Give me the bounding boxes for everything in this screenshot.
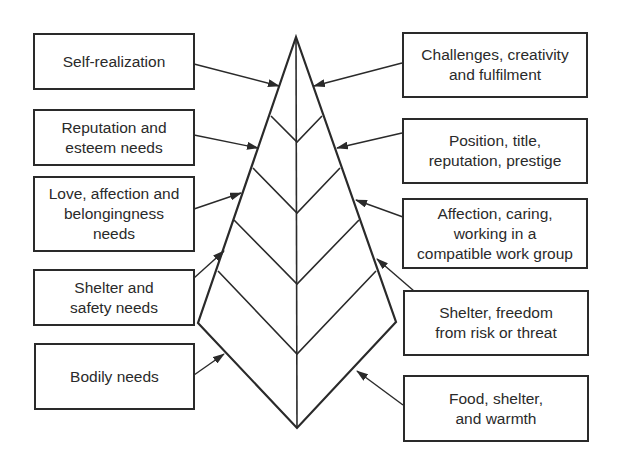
label-box-shelter-freedom: Shelter, freedom from risk or threat <box>403 290 589 356</box>
label-text: Shelter and safety needs <box>70 278 158 318</box>
arrow-right-3 <box>356 200 403 217</box>
label-text: Challenges, creativity and fulfilment <box>421 45 568 85</box>
label-text: Shelter, freedom from risk or threat <box>435 303 556 343</box>
label-box-shelter-safety: Shelter and safety needs <box>33 269 195 326</box>
arrow-left-3 <box>194 193 241 209</box>
label-text: Food, shelter, and warmth <box>449 389 543 429</box>
label-text: Self-realization <box>63 52 166 72</box>
arrow-right-2 <box>337 133 402 148</box>
arrow-left-2 <box>194 135 258 148</box>
arrow-left-1 <box>194 64 279 86</box>
label-box-food-shelter: Food, shelter, and warmth <box>403 375 589 442</box>
label-box-love-affection: Love, affection and belongingness needs <box>33 176 195 252</box>
label-box-affection-caring: Affection, caring, working in a compatib… <box>402 198 588 269</box>
label-text: Position, title, reputation, prestige <box>429 131 562 171</box>
arrow-left-4 <box>194 251 224 278</box>
label-box-bodily-needs: Bodily needs <box>34 343 195 410</box>
diagram-canvas: Self-realization Reputation and esteem n… <box>0 0 623 462</box>
label-text: Affection, caring, working in a compatib… <box>417 204 573 264</box>
label-text: Bodily needs <box>70 367 159 387</box>
label-text: Love, affection and belongingness needs <box>49 184 180 244</box>
label-box-self-realization: Self-realization <box>33 33 195 90</box>
arrow-right-5 <box>357 371 403 405</box>
label-box-challenges: Challenges, creativity and fulfilment <box>402 32 588 98</box>
arrow-left-5 <box>194 354 224 375</box>
label-text: Reputation and esteem needs <box>61 118 166 158</box>
label-box-position: Position, title, reputation, prestige <box>402 118 588 184</box>
arrow-right-1 <box>314 63 402 86</box>
kite-spine <box>296 37 297 428</box>
label-box-reputation-esteem: Reputation and esteem needs <box>33 109 195 166</box>
